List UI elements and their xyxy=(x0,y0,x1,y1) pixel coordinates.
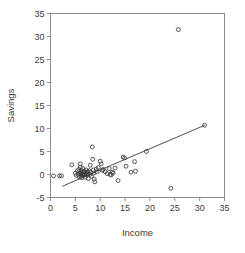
x-axis-tick-label: 30 xyxy=(195,203,205,213)
x-axis-tick-label: 0 xyxy=(48,203,53,213)
y-axis-tick-label: 30 xyxy=(34,32,44,42)
x-axis-title: Income xyxy=(122,227,153,238)
x-axis-tick-label: 35 xyxy=(219,203,229,213)
x-axis-tick-label: 20 xyxy=(145,203,155,213)
y-axis-tick-label: 15 xyxy=(34,101,44,111)
x-axis-tick-label: 25 xyxy=(170,203,180,213)
y-axis-tick-label: 5 xyxy=(39,147,44,157)
x-axis-tick-label: 10 xyxy=(95,203,105,213)
plot-canvas: 05101520253035-505101520253035IncomeSavi… xyxy=(0,0,245,253)
y-axis-tick-label: -5 xyxy=(36,193,44,203)
scatter-plot-figure: 05101520253035-505101520253035IncomeSavi… xyxy=(0,0,245,253)
x-axis-tick-label: 15 xyxy=(120,203,130,213)
y-axis-tick-label: 10 xyxy=(34,124,44,134)
y-axis-tick-label: 25 xyxy=(34,55,44,65)
y-axis-tick-label: 20 xyxy=(34,78,44,88)
y-axis-title: Savings xyxy=(5,88,16,122)
x-axis-tick-label: 5 xyxy=(73,203,78,213)
y-axis-tick-label: 35 xyxy=(34,9,44,19)
y-axis-tick-label: 0 xyxy=(39,170,44,180)
